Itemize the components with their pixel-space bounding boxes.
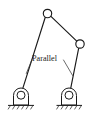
right-pin-joint <box>76 40 84 48</box>
parallel-label: Parallel <box>32 54 58 63</box>
parallel-linkage-figure: Parallel <box>0 0 94 114</box>
left-support-pin <box>17 91 25 99</box>
leader-line-right <box>64 60 73 76</box>
right-ground-hatching <box>57 105 82 109</box>
leader-line-left <box>26 60 32 74</box>
right-pin-support <box>57 88 83 109</box>
member-right-joint-to-right-support <box>70 48 79 91</box>
right-support-pin <box>65 91 73 99</box>
linkage-diagram: Parallel <box>0 0 94 114</box>
left-ground-hatching <box>8 105 33 109</box>
member-top-to-right-joint <box>51 16 77 41</box>
top-pin-joint <box>43 9 51 17</box>
left-pin-support <box>8 88 34 109</box>
